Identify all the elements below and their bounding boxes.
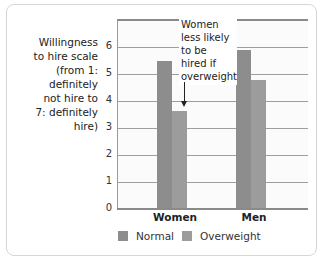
annotation-line: to be <box>181 44 237 57</box>
gridline <box>117 101 308 102</box>
bar-women-overweight <box>172 111 187 209</box>
y-tick: 2 <box>100 148 112 159</box>
legend-item-normal: Normal <box>118 230 174 242</box>
arrowhead-icon <box>181 101 187 107</box>
legend-swatch-normal <box>118 231 128 241</box>
annotation: Women less likely to be hired if overwei… <box>179 16 237 85</box>
legend-label: Overweight <box>200 230 261 242</box>
annotation-line: hired if <box>181 57 237 70</box>
y-axis-label-line: to hire scale <box>8 49 98 63</box>
y-tick: 5 <box>100 67 112 78</box>
bar-women-normal <box>157 61 172 209</box>
y-tick: 1 <box>100 175 112 186</box>
gridline <box>117 128 308 129</box>
legend-label: Normal <box>136 230 174 242</box>
annotation-line: overweight <box>181 70 237 83</box>
y-tick: 6 <box>100 40 112 51</box>
y-tick: 3 <box>100 121 112 132</box>
gridline <box>117 182 308 183</box>
bar-men-normal <box>236 50 251 209</box>
annotation-line: Women <box>181 18 237 31</box>
y-tick: 0 <box>100 202 112 213</box>
annotation-line: less likely <box>181 31 237 44</box>
y-axis-label-line: (from 1: definitely <box>8 63 98 91</box>
y-axis-label-line: not hire to <box>8 91 98 105</box>
legend-swatch-overweight <box>182 231 192 241</box>
legend-item-overweight: Overweight <box>182 230 261 242</box>
bar-men-overweight <box>251 80 266 209</box>
x-axis <box>117 208 308 210</box>
gridline <box>117 155 308 156</box>
y-axis-label: Willingness to hire scale (from 1: defin… <box>8 35 98 133</box>
y-axis-label-line: 7: definitely hire) <box>8 105 98 133</box>
y-axis-label-line: Willingness <box>8 35 98 49</box>
x-tick-men: Men <box>224 211 284 223</box>
y-tick: 4 <box>100 94 112 105</box>
x-tick-women: Women <box>145 211 205 223</box>
